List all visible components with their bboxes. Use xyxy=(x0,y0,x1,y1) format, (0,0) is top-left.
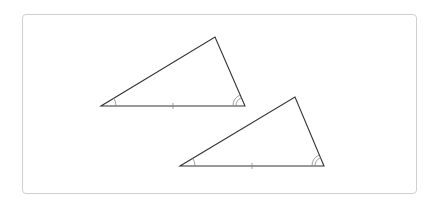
double-angle-mark xyxy=(233,95,240,106)
single-angle-mark xyxy=(193,158,195,166)
double-angle-mark xyxy=(236,98,241,106)
triangle-1 xyxy=(101,37,245,109)
double-angle-mark xyxy=(312,155,319,166)
single-angle-mark xyxy=(114,98,116,106)
triangle-outline xyxy=(180,97,324,166)
double-angle-mark xyxy=(315,158,321,166)
congruent-triangles-figure xyxy=(0,0,440,212)
triangle-outline xyxy=(101,37,245,106)
triangle-2 xyxy=(180,97,324,169)
